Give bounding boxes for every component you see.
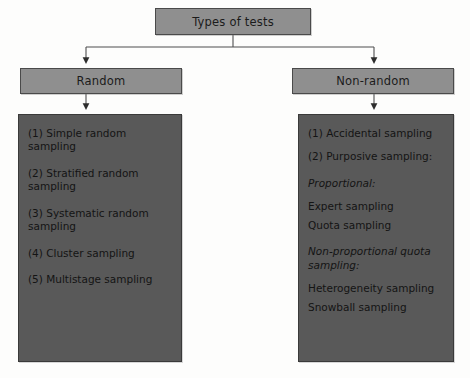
list-item: Heterogeneity sampling bbox=[308, 282, 453, 295]
list-item-subheading: Non-proportional quota sampling: bbox=[308, 245, 453, 272]
node-random[interactable]: Random bbox=[20, 68, 182, 94]
list-item: (2) Stratified random sampling bbox=[28, 167, 181, 194]
node-random-label: Random bbox=[77, 74, 126, 88]
node-non-random[interactable]: Non-random bbox=[292, 68, 454, 94]
panel-non-random-methods: (1) Accidental sampling (2) Purposive sa… bbox=[298, 114, 454, 362]
list-item: (3) Systematic random sampling bbox=[28, 207, 181, 234]
node-types-of-tests[interactable]: Types of tests bbox=[155, 8, 311, 35]
list-item: Expert sampling bbox=[308, 200, 453, 213]
diagram-canvas: Types of tests Random Non-random (1) Sim… bbox=[0, 0, 470, 378]
node-types-of-tests-label: Types of tests bbox=[192, 15, 274, 29]
list-item-subheading: Proportional: bbox=[308, 177, 453, 190]
list-item: (4) Cluster sampling bbox=[28, 247, 181, 260]
panel-random-methods: (1) Simple random sampling (2) Stratifie… bbox=[18, 114, 182, 362]
list-item: (2) Purposive sampling: bbox=[308, 150, 453, 163]
list-item: Snowball sampling bbox=[308, 301, 453, 314]
list-item: (1) Simple random sampling bbox=[28, 127, 181, 154]
list-item: Quota sampling bbox=[308, 219, 453, 232]
list-item: (5) Multistage sampling bbox=[28, 273, 181, 286]
node-non-random-label: Non-random bbox=[336, 74, 410, 88]
list-item: (1) Accidental sampling bbox=[308, 127, 453, 140]
